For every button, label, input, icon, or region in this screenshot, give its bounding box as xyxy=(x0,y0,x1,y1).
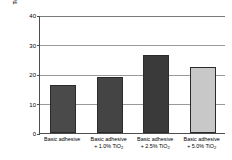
bar xyxy=(97,77,123,133)
y-axis-tick-label: 0 xyxy=(20,131,36,137)
x-category-line2-subscript: 2 xyxy=(167,145,169,150)
x-category-line2-text: + 5.0% TiO xyxy=(187,143,214,149)
x-category-line1: Basic adhesive xyxy=(87,136,132,143)
x-category-line2: + 2.5% TiO2 xyxy=(133,143,178,151)
y-axis-tick-label: 30 xyxy=(20,43,36,49)
x-axis-category-labels: Basic adhesiveBasic adhesive+ 1.0% TiO2B… xyxy=(39,136,225,160)
x-category-line2-subscript: 2 xyxy=(214,145,216,150)
x-axis-category-label: Basic adhesive xyxy=(40,136,85,143)
x-axis-category-label: Basic adhesive+ 2.5% TiO2 xyxy=(133,136,178,151)
y-axis-tick-mark xyxy=(37,134,40,135)
x-category-line2-subscript: 2 xyxy=(121,145,123,150)
x-category-line2-text: + 1.0% TiO xyxy=(94,143,121,149)
x-category-line2-text: + 2.5% TiO xyxy=(141,143,168,149)
bar xyxy=(190,67,216,133)
bars-layer xyxy=(40,16,225,133)
x-axis-category-label: Basic adhesive+ 5.0% TiO2 xyxy=(180,136,225,151)
x-category-line2: + 5.0% TiO2 xyxy=(180,143,225,151)
x-category-line2: + 1.0% TiO2 xyxy=(87,143,132,151)
plot-area xyxy=(39,16,225,134)
x-category-line1: Basic adhesive xyxy=(180,136,225,143)
x-category-line1: Basic adhesive xyxy=(40,136,85,143)
x-category-line1: Basic adhesive xyxy=(133,136,178,143)
y-axis-tick-labels: 010203040 xyxy=(19,0,36,160)
y-axis-tick-label: 10 xyxy=(20,102,36,108)
y-axis-title-lead: Tensile strength f xyxy=(11,0,18,5)
bar xyxy=(143,55,169,133)
bar-chart-figure: Tensile strength ft [N/mm2] 010203040 Ba… xyxy=(0,0,232,160)
x-axis-category-label: Basic adhesive+ 1.0% TiO2 xyxy=(87,136,132,151)
bar xyxy=(50,85,76,133)
y-axis-tick-label: 20 xyxy=(20,72,36,78)
y-axis-tick-label: 40 xyxy=(20,13,36,19)
